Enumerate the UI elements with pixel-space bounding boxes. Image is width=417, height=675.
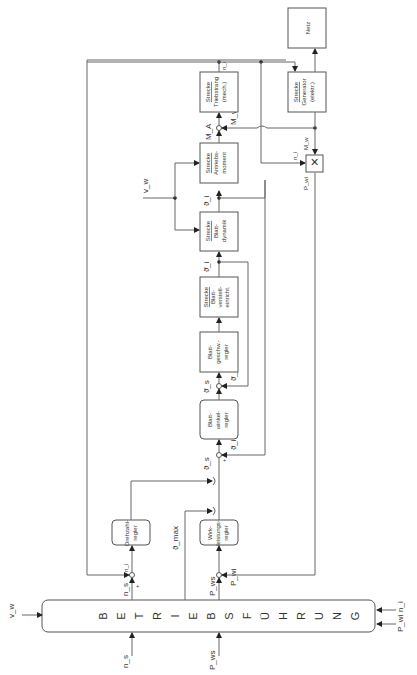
label-theta-i-1: ϑ_i xyxy=(229,439,238,450)
svg-text:(mech.): (mech.) xyxy=(221,82,227,102)
drehzahlregler-block xyxy=(112,520,150,545)
svg-text:B: B xyxy=(205,612,217,619)
svg-text:Triebstrang: Triebstrang xyxy=(213,77,219,107)
svg-text:leistungs-: leistungs- xyxy=(215,520,221,546)
sum-junction-speed xyxy=(130,573,135,578)
svg-text:Ü: Ü xyxy=(259,612,271,620)
svg-text:verstell-: verstell- xyxy=(217,286,223,307)
svg-text:regler: regler xyxy=(223,525,229,540)
svg-text:Blatt-: Blatt- xyxy=(210,290,216,304)
svg-text:U: U xyxy=(313,612,325,620)
svg-text:N: N xyxy=(331,612,343,620)
svg-text:Blatt-: Blatt- xyxy=(213,224,219,238)
svg-text:dynamik: dynamik xyxy=(221,219,227,242)
label-mw-2: M_w xyxy=(303,137,309,150)
svg-text:regler: regler xyxy=(223,344,229,359)
svg-text:I: I xyxy=(169,614,181,617)
svg-text:Strecke: Strecke xyxy=(205,81,211,102)
betriebsfuehrung-label: B E T R I E B S F Ü H R U N G xyxy=(97,612,361,621)
line-crossover xyxy=(257,126,267,128)
svg-text:Blatt-: Blatt- xyxy=(207,413,213,427)
svg-text:einricht.: einricht. xyxy=(224,286,230,307)
label-pwi-mult: P_wi xyxy=(303,177,309,190)
svg-text:(elektr.): (elektr.) xyxy=(309,82,315,102)
svg-text:Antriebs-: Antriebs- xyxy=(213,151,219,175)
wind-turbine-control-block-diagram: B E T R I E B S F Ü H R U N G v_w n_s P_… xyxy=(0,0,417,675)
label-vw-top: v_w xyxy=(141,179,150,193)
svg-text:Strecke: Strecke xyxy=(203,286,209,307)
label-ma: M_A xyxy=(204,123,213,140)
label-ni-fb: n_i xyxy=(123,564,129,572)
svg-text:regler: regler xyxy=(223,412,229,427)
plus-sign: + xyxy=(134,584,140,588)
label-pws-bottom: P_ws xyxy=(208,650,217,670)
svg-text:E: E xyxy=(187,612,199,619)
svg-text:Netz: Netz xyxy=(305,22,311,34)
label-pws-top: P_ws xyxy=(208,576,217,596)
svg-text:Strecke: Strecke xyxy=(293,81,299,102)
svg-text:winkel-: winkel- xyxy=(215,411,221,431)
svg-text:F: F xyxy=(241,612,253,619)
svg-text:moment: moment xyxy=(221,152,227,174)
svg-text:R: R xyxy=(295,612,307,620)
svg-text:B: B xyxy=(97,612,109,619)
sum-junction-rate xyxy=(217,384,222,389)
min-selector-1 xyxy=(213,507,215,515)
svg-text:Wirk-: Wirk- xyxy=(207,526,213,540)
label-pwi-fb: P_wi xyxy=(229,568,238,586)
sum-junction-power xyxy=(217,573,222,578)
svg-text:+: + xyxy=(221,458,227,462)
svg-text:T: T xyxy=(133,612,145,619)
label-theta-max: ϑ_max xyxy=(171,526,180,550)
label-theta-dot-s: ϑ̇_s xyxy=(202,380,211,393)
min-selector-2 xyxy=(213,477,215,485)
svg-text:regler: regler xyxy=(132,525,138,540)
svg-text:Strecke: Strecke xyxy=(205,220,211,241)
svg-text:Generator: Generator xyxy=(301,78,307,105)
multiply-icon: × xyxy=(310,154,318,170)
svg-text:S: S xyxy=(223,612,235,619)
label-ni-mult: n_i xyxy=(292,152,298,160)
sum-junction-torque xyxy=(217,126,222,131)
label-pwi-right: P_wi xyxy=(396,614,405,632)
svg-text:H: H xyxy=(277,612,289,620)
label-ns-bottom: n_s xyxy=(121,655,130,668)
label-ns-top: n_s xyxy=(121,583,130,596)
label-theta-s: ϑ_s xyxy=(202,457,211,470)
sum-junction-angle xyxy=(217,453,222,458)
svg-text:Strecke: Strecke xyxy=(205,152,211,173)
svg-text:E: E xyxy=(115,612,127,619)
label-vw-in: v_w xyxy=(7,604,16,618)
svg-text:R: R xyxy=(151,612,163,620)
label-ni-top: n_i xyxy=(221,62,227,70)
svg-text:geschw.-: geschw.- xyxy=(215,340,221,364)
svg-text:G: G xyxy=(349,612,361,621)
label-ni-right: n_i xyxy=(396,601,405,612)
label-theta-i-2: ϑ_i xyxy=(202,195,211,206)
svg-text:Blatt-: Blatt- xyxy=(207,345,213,359)
svg-text:ϑ̇_i: ϑ̇_i xyxy=(202,261,211,272)
svg-text:Drehzahl-: Drehzahl- xyxy=(124,520,130,546)
